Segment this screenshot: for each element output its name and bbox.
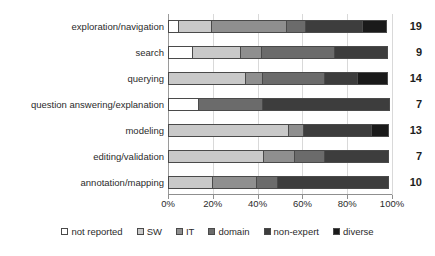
bar-segment-diverse (362, 20, 387, 33)
x-tick-label: 20% (203, 198, 222, 209)
legend-swatch-icon (61, 228, 68, 235)
bar-segment-it (245, 72, 263, 85)
bar-row (168, 176, 392, 189)
legend-label: domain (218, 226, 249, 237)
bar-segment-non-expert (305, 20, 363, 33)
bar-segment-it (240, 46, 262, 59)
bar-row (168, 72, 392, 85)
category-label: exploration/navigation (4, 20, 164, 33)
bar-row (168, 46, 392, 59)
legend-item: diverse (333, 226, 374, 237)
x-axis-tick-labels: 0%20%40%60%80%100% (168, 198, 392, 212)
chart-legend: not reportedSWITdomainnon-expertdiverse (0, 226, 435, 237)
bar-segment-sw (192, 46, 241, 59)
legend-item: IT (176, 226, 194, 237)
legend-label: IT (186, 226, 194, 237)
gridline-100pct (392, 14, 393, 195)
bar-segment-domain (256, 176, 278, 189)
bar-row (168, 150, 392, 163)
x-tick-label: 40% (248, 198, 267, 209)
bar-segment-domain (261, 46, 335, 59)
bar-segment-non-expert (334, 46, 388, 59)
bar-segment-it (211, 20, 287, 33)
bar-value-label: 13 (396, 124, 422, 137)
x-tick-label: 80% (338, 198, 357, 209)
x-tick-label: 100% (380, 198, 404, 209)
bar-segment-sw (168, 72, 246, 85)
category-label: querying (4, 72, 164, 85)
bar-segment-non-expert (324, 72, 358, 85)
stacked-bar-chart: exploration/navigationsearchqueryingques… (0, 0, 435, 256)
bar-segment-sw (168, 124, 289, 137)
x-tick-label: 0% (161, 198, 175, 209)
legend-swatch-icon (333, 228, 340, 235)
legend-label: diverse (343, 226, 374, 237)
bar-segment-diverse (371, 124, 389, 137)
category-label: annotation/mapping (4, 176, 164, 189)
category-label: editing/validation (4, 150, 164, 163)
bar-segment-it (288, 124, 304, 137)
bar-row (168, 98, 392, 111)
bar-segment-domain (262, 72, 325, 85)
bar-value-label: 14 (396, 72, 422, 85)
bar-segment-it (212, 176, 257, 189)
legend-label: non-expert (274, 226, 319, 237)
bar-value-label: 7 (396, 150, 422, 163)
bar-segment-non-expert (262, 98, 390, 111)
legend-item: non-expert (264, 226, 319, 237)
bar-value-label: 19 (396, 20, 422, 33)
legend-swatch-icon (137, 228, 144, 235)
bar-segment-sw (168, 176, 213, 189)
x-tick-label: 60% (293, 198, 312, 209)
bar-row (168, 20, 392, 33)
bar-value-label: 9 (396, 46, 422, 59)
plot-area (168, 14, 392, 195)
legend-item: domain (208, 226, 249, 237)
bar-segment-not-reported (168, 98, 199, 111)
bar-segment-non-expert (303, 124, 372, 137)
bar-value-labels: 19914713710 (396, 14, 430, 195)
bar-rows (168, 14, 392, 195)
bar-value-label: 10 (396, 176, 422, 189)
legend-label: SW (147, 226, 162, 237)
bar-segment-not-reported (168, 46, 193, 59)
bar-segment-sw (168, 150, 264, 163)
legend-swatch-icon (176, 228, 183, 235)
bar-row (168, 124, 392, 137)
bar-segment-domain (286, 20, 306, 33)
legend-swatch-icon (264, 228, 271, 235)
legend-item: SW (137, 226, 162, 237)
bar-segment-non-expert (277, 176, 389, 189)
bar-value-label: 7 (396, 98, 422, 111)
category-axis-labels: exploration/navigationsearchqueryingques… (0, 14, 164, 195)
category-label: search (4, 46, 164, 59)
bar-segment-domain (294, 150, 325, 163)
bar-segment-it (263, 150, 294, 163)
bar-segment-diverse (357, 72, 388, 85)
legend-label: not reported (71, 226, 122, 237)
bar-segment-domain (198, 98, 263, 111)
legend-item: not reported (61, 226, 122, 237)
bar-segment-sw (178, 20, 212, 33)
category-label: question answering/explanation (4, 98, 164, 111)
bar-segment-non-expert (324, 150, 389, 163)
category-label: modeling (4, 124, 164, 137)
legend-swatch-icon (208, 228, 215, 235)
